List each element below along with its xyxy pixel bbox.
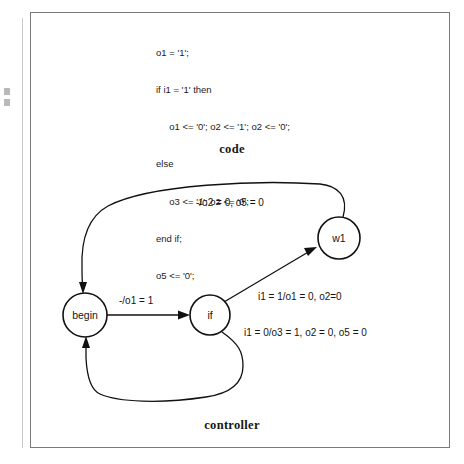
arrowhead-if-to-w1 bbox=[304, 247, 317, 256]
state-label-w1: w1 bbox=[331, 232, 346, 244]
edge-label-if-to-w1: i1 = 1/o1 = 0, o2=0 bbox=[258, 291, 342, 302]
state-label-if: if bbox=[207, 309, 212, 321]
state-label-begin: begin bbox=[72, 309, 98, 321]
edge-if-to-begin bbox=[86, 332, 243, 401]
edge-label-begin-to-if: -/o1 = 1 bbox=[119, 295, 154, 306]
controller-state-diagram: begin if w1 -/o2 = 0, o5 = 0 -/o1 = 1 i1… bbox=[0, 0, 464, 464]
controller-caption: controller bbox=[0, 418, 464, 433]
arrowhead-w1-to-begin bbox=[79, 282, 87, 294]
figure-page: o1 = '1'; if i1 = '1' then o1 <= '0'; o2… bbox=[0, 0, 464, 464]
arrowhead-if-to-begin bbox=[82, 336, 90, 348]
edge-label-w1-to-begin: -/o2 = 0, o5 = 0 bbox=[196, 197, 264, 208]
arrowhead-begin-to-if bbox=[178, 311, 190, 320]
edge-label-if-to-begin: i1 = 0/o3 = 1, o2 = 0, o5 = 0 bbox=[244, 327, 367, 338]
